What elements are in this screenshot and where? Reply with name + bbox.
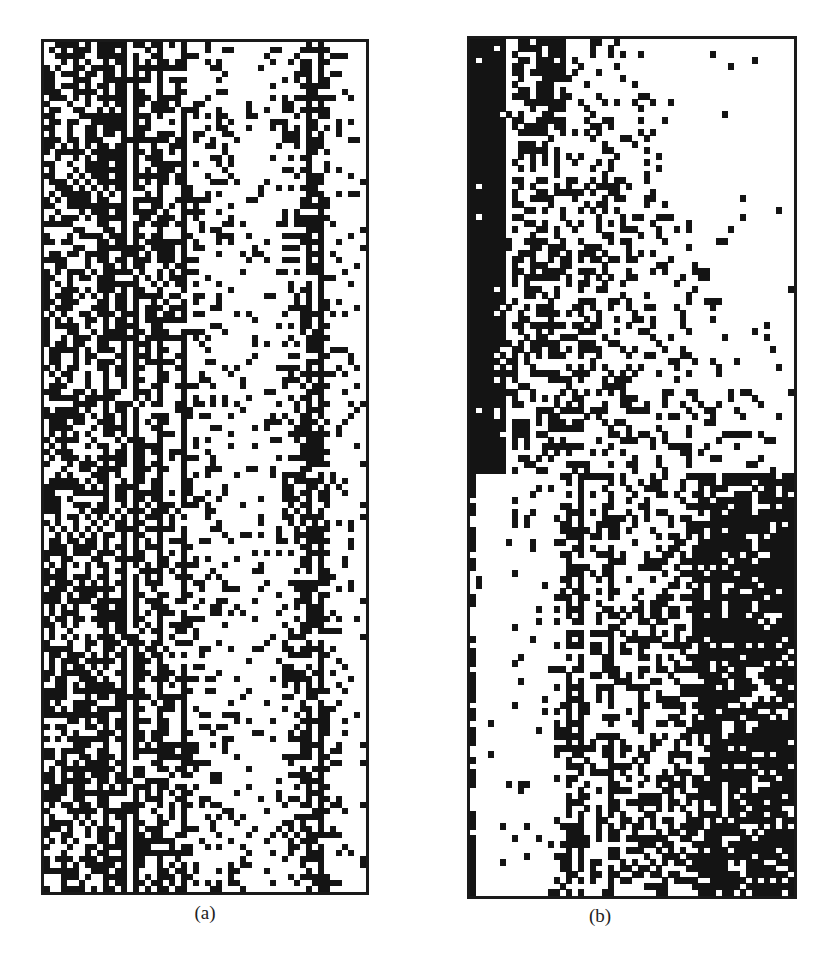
cellular-automaton-plot-a — [44, 42, 366, 892]
panel-b-caption: (b) — [570, 905, 630, 927]
cellular-automaton-plot-b — [470, 39, 794, 896]
panel-a-caption: (a) — [175, 902, 235, 924]
figure-panel-b — [467, 36, 797, 899]
figure-panel-a — [41, 39, 369, 895]
